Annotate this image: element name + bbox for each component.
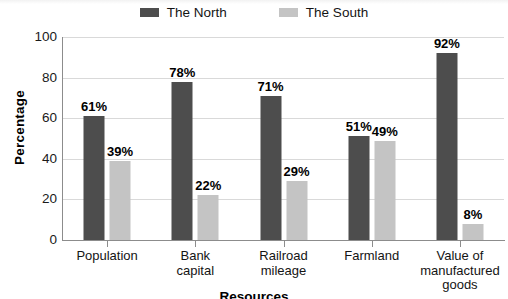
scan-artifact: [0, 0, 508, 4]
bar-pair: 61%39%: [84, 37, 131, 240]
y-axis-tick-label: 20: [5, 192, 57, 206]
x-axis-category-line: Railroad: [241, 249, 325, 264]
x-axis-tick-mark: [107, 241, 108, 247]
bar[interactable]: [436, 53, 457, 240]
y-axis: Percentage 100806040200: [0, 0, 57, 299]
bar-value-label: 71%: [257, 80, 283, 94]
y-axis-title: Percentage: [12, 68, 27, 188]
bar[interactable]: [286, 181, 307, 240]
bar-slot: 92%: [436, 37, 457, 240]
y-axis-tick-label: 80: [5, 71, 57, 85]
bar-value-label: 51%: [346, 120, 372, 134]
x-axis-category-label: Farmland: [328, 249, 416, 293]
bar-value-label: 39%: [107, 145, 133, 159]
bar-slot: 39%: [110, 37, 131, 240]
bar-value-label: 61%: [81, 100, 107, 114]
x-axis-tick-cell: [328, 241, 416, 247]
x-axis-tick-cell: [151, 241, 239, 247]
x-axis-tick-mark: [195, 241, 196, 247]
bar-slot: 51%: [348, 37, 369, 240]
bar[interactable]: [374, 141, 395, 240]
x-axis-tick-cell: [63, 241, 151, 247]
x-axis-category-line: manufactured: [418, 264, 502, 279]
bar[interactable]: [462, 224, 483, 240]
x-axis-category-line: mileage: [241, 264, 325, 279]
bar-slot: 49%: [374, 37, 395, 240]
x-axis-category-line: Farmland: [330, 249, 414, 264]
bar-group: 78%22%: [151, 37, 239, 240]
x-axis-tick-mark: [284, 241, 285, 247]
x-axis-labels: PopulationBankcapitalRailroadmileageFarm…: [63, 249, 504, 293]
x-axis-category-line: Population: [65, 249, 149, 264]
bar-value-label: 22%: [195, 179, 221, 193]
y-axis-tick-label: 60: [5, 111, 57, 125]
bar-groups: 61%39%78%22%71%29%51%49%92%8%: [63, 37, 504, 240]
bar-group: 51%49%: [328, 37, 416, 240]
bar-group: 61%39%: [63, 37, 151, 240]
bar-chart-figure: The North The South Percentage 100806040…: [0, 0, 508, 299]
bar[interactable]: [198, 195, 219, 240]
bar-slot: 29%: [286, 37, 307, 240]
x-axis-category-label: Population: [63, 249, 151, 293]
bar[interactable]: [348, 136, 369, 240]
bar[interactable]: [260, 96, 281, 240]
bar-value-label: 29%: [283, 165, 309, 179]
y-axis-tick-label: 0: [5, 233, 57, 247]
bar-value-label: 49%: [372, 125, 398, 139]
bar-slot: 78%: [172, 37, 193, 240]
legend-label-north: The North: [167, 5, 227, 20]
bar-group: 71%29%: [239, 37, 327, 240]
y-axis-tick-label: 100: [5, 30, 57, 44]
x-axis-category-line: Bank: [153, 249, 237, 264]
x-axis-category-line: capital: [153, 264, 237, 279]
bar-value-label: 92%: [434, 37, 460, 51]
bar[interactable]: [110, 161, 131, 240]
x-axis-tick-cell: [239, 241, 327, 247]
x-axis-tick-cell: [416, 241, 504, 247]
y-axis-tick-label: 40: [5, 152, 57, 166]
x-axis-tick-mark: [460, 241, 461, 247]
bar-pair: 71%29%: [260, 37, 307, 240]
bar-value-label: 8%: [464, 208, 483, 222]
bar-pair: 78%22%: [172, 37, 219, 240]
bar-slot: 22%: [198, 37, 219, 240]
bar[interactable]: [172, 82, 193, 240]
legend-label-south: The South: [306, 5, 368, 20]
bar-pair: 92%8%: [436, 37, 483, 240]
x-axis-category-line: Value of: [418, 249, 502, 264]
x-axis-category-label: Value ofmanufacturedgoods: [416, 249, 504, 293]
chart-legend: The North The South: [0, 5, 508, 20]
legend-entry-the-south: The South: [279, 5, 368, 20]
legend-swatch-north-icon: [140, 8, 159, 17]
bar-slot: 71%: [260, 37, 281, 240]
legend-swatch-south-icon: [279, 8, 298, 17]
x-axis-ticks: [63, 241, 504, 247]
bar-pair: 51%49%: [348, 37, 395, 240]
bar-group: 92%8%: [416, 37, 504, 240]
bar-value-label: 78%: [169, 66, 195, 80]
x-axis-category-label: Railroadmileage: [239, 249, 327, 293]
x-axis-title: Resources: [0, 289, 508, 299]
bar-slot: 61%: [84, 37, 105, 240]
x-axis-tick-mark: [372, 241, 373, 247]
bar-slot: 8%: [462, 37, 483, 240]
legend-entry-the-north: The North: [140, 5, 227, 20]
x-axis-category-label: Bankcapital: [151, 249, 239, 293]
bar[interactable]: [84, 116, 105, 240]
